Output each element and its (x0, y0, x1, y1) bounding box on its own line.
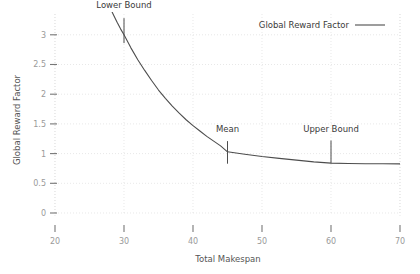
x-tick-label: 20 (50, 237, 60, 246)
y-axis-ticks (50, 35, 57, 213)
annotation-label: Upper Bound (303, 124, 359, 134)
data-series-global-reward-factor (110, 8, 400, 164)
y-axis-title: Global Reward Factor (12, 74, 22, 165)
y-tick-label: 0 (41, 209, 46, 218)
annotation-mean: Mean (216, 124, 239, 163)
y-tick-label: 1 (41, 150, 46, 159)
chart-container: 00.511.522.53 203040506070 Lower BoundMe… (0, 0, 420, 274)
y-tick-label: 2.5 (33, 60, 46, 69)
y-tick-label: 1.5 (33, 120, 46, 129)
legend-label: Global Reward Factor (259, 20, 350, 30)
y-axis-tick-labels: 00.511.522.53 (33, 31, 46, 218)
x-tick-label: 40 (188, 237, 198, 246)
chart-canvas: 00.511.522.53 203040506070 Lower BoundMe… (0, 0, 420, 274)
annotation-label: Mean (216, 124, 239, 134)
x-tick-label: 50 (257, 237, 267, 246)
annotation-lower-bound: Lower Bound (96, 0, 151, 43)
y-tick-label: 3 (41, 31, 46, 40)
series-line-global-reward-factor (110, 8, 400, 164)
y-tick-label: 2 (41, 90, 46, 99)
x-axis-ticks (55, 225, 400, 232)
axis-lines (55, 14, 400, 217)
x-tick-label: 60 (326, 237, 336, 246)
legend: Global Reward Factor (259, 20, 385, 30)
annotation-label: Lower Bound (96, 0, 151, 10)
x-axis-tick-labels: 203040506070 (50, 237, 405, 246)
y-tick-label: 0.5 (33, 179, 46, 188)
annotation-upper-bound: Upper Bound (303, 124, 359, 163)
x-axis-title: Total Makespan (194, 254, 260, 264)
x-tick-label: 70 (395, 237, 405, 246)
x-tick-label: 30 (119, 237, 129, 246)
